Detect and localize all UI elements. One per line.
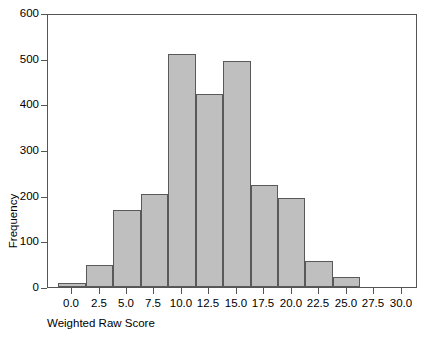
x-tick-mark [291, 288, 292, 294]
x-tick-label: 30.0 [381, 297, 421, 309]
histogram-bar [223, 61, 250, 287]
histogram-bar [86, 265, 113, 287]
histogram-bar [168, 54, 195, 287]
y-tick-mark [41, 14, 47, 15]
y-tick-mark [41, 60, 47, 61]
x-tick-mark [181, 288, 182, 294]
y-tick-label: 400 [0, 99, 39, 111]
histogram-bar [333, 277, 360, 287]
y-tick-mark [41, 197, 47, 198]
y-tick-mark [41, 242, 47, 243]
histogram-bar [278, 198, 305, 287]
y-tick-label: 500 [0, 54, 39, 66]
x-tick-mark [263, 288, 264, 294]
y-tick-label: 200 [0, 191, 39, 203]
bars-layer [48, 15, 416, 287]
x-tick-mark [401, 288, 402, 294]
y-tick-mark [41, 288, 47, 289]
x-tick-mark [208, 288, 209, 294]
histogram-bar [58, 283, 85, 287]
x-tick-mark [318, 288, 319, 294]
x-tick-mark [99, 288, 100, 294]
y-tick-label: 600 [0, 8, 39, 20]
x-tick-mark [153, 288, 154, 294]
y-axis-title: Frequency [7, 176, 19, 266]
y-tick-label: 0 [0, 282, 39, 294]
x-tick-mark [236, 288, 237, 294]
histogram-bar [113, 210, 140, 287]
y-tick-label: 300 [0, 145, 39, 157]
histogram-bar [196, 94, 223, 287]
histogram-figure: 0100200300400500600 0.02.55.07.510.012.5… [0, 0, 428, 341]
y-tick-label: 100 [0, 236, 39, 248]
x-tick-mark [71, 288, 72, 294]
histogram-bar [251, 185, 278, 287]
y-tick-mark [41, 105, 47, 106]
x-tick-mark [346, 288, 347, 294]
plot-area [47, 14, 417, 288]
x-tick-mark [126, 288, 127, 294]
histogram-bar [141, 194, 168, 287]
x-axis-title: Weighted Raw Score [47, 317, 155, 329]
y-tick-mark [41, 151, 47, 152]
histogram-bar [305, 261, 332, 287]
x-tick-mark [373, 288, 374, 294]
